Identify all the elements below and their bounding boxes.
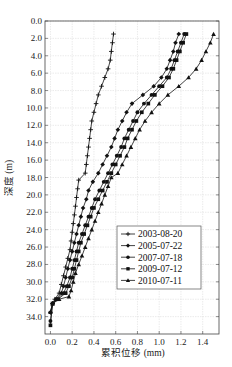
- x-axis-ticks: 0.00.20.40.60.81.01.21.4: [45, 331, 209, 347]
- y-tick-label: 6.0: [31, 68, 43, 78]
- y-tick-label: 18.0: [26, 173, 42, 183]
- y-tick-label: 12.0: [26, 120, 42, 130]
- y-tick-label: 14.0: [26, 138, 42, 148]
- depth-displacement-chart: 0.00.20.40.60.81.01.21.4 0.02.04.06.08.0…: [0, 0, 232, 367]
- y-tick-label: 34.0: [26, 312, 42, 322]
- y-tick-label: 20.0: [26, 190, 42, 200]
- x-tick-label: 1.4: [197, 337, 209, 347]
- x-tick-label: 0.4: [88, 337, 100, 347]
- series-2003-08-20: [48, 32, 116, 315]
- legend: 2003-08-202005-07-222007-07-182009-07-12…: [117, 226, 201, 289]
- y-tick-label: 22.0: [26, 207, 42, 217]
- y-tick-label: 10.0: [26, 103, 42, 113]
- y-tick-label: 26.0: [26, 242, 42, 252]
- legend-label: 2003-08-20: [138, 229, 183, 239]
- y-tick-label: 30.0: [26, 277, 42, 287]
- y-tick-label: 24.0: [26, 225, 42, 235]
- x-tick-label: 1.2: [175, 337, 186, 347]
- x-tick-label: 0.2: [67, 337, 78, 347]
- y-tick-label: 32.0: [26, 294, 42, 304]
- x-tick-label: 0.8: [132, 337, 144, 347]
- y-tick-label: 16.0: [26, 155, 42, 165]
- y-tick-label: 2.0: [31, 33, 43, 43]
- y-tick-label: 28.0: [26, 259, 42, 269]
- x-tick-label: 1.0: [154, 337, 166, 347]
- legend-label: 2005-07-22: [138, 241, 183, 251]
- x-tick-label: 0.6: [110, 337, 122, 347]
- y-tick-label: 8.0: [31, 86, 43, 96]
- y-tick-label: 4.0: [31, 51, 43, 61]
- y-axis-label: 深度 (m): [3, 160, 15, 196]
- legend-label: 2010-07-11: [138, 276, 182, 286]
- y-tick-label: 0.0: [31, 16, 43, 26]
- legend-label: 2009-07-12: [138, 264, 183, 274]
- legend-label: 2007-07-18: [138, 253, 183, 263]
- x-tick-label: 0.0: [45, 337, 57, 347]
- x-axis-label: 累积位移 (mm): [101, 347, 164, 359]
